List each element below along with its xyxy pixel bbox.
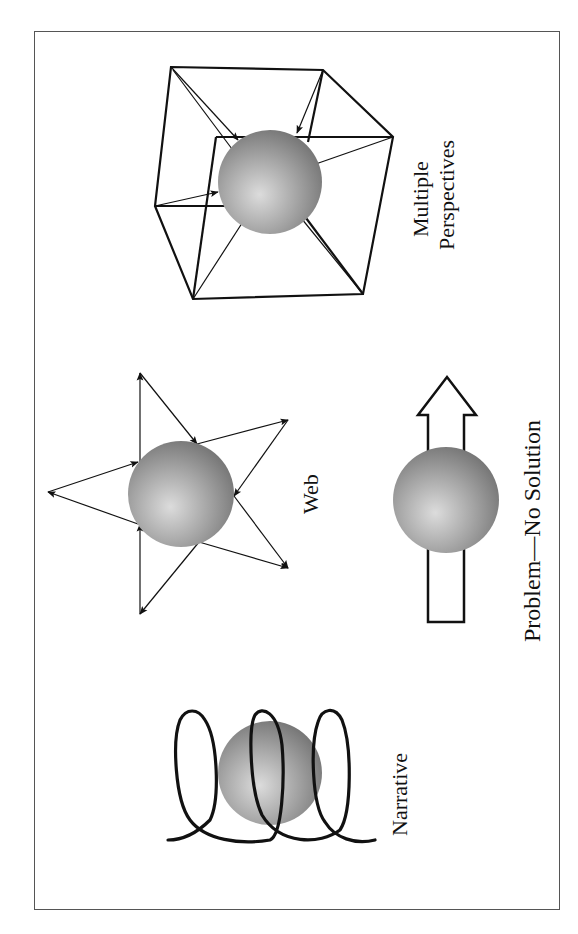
web-diagram: Web: [48, 373, 323, 614]
label-multiple: Multiple: [408, 161, 433, 237]
problem-no-solution-diagram: Problem—No Solution: [393, 377, 545, 642]
sphere: [128, 441, 234, 547]
sphere: [393, 447, 499, 553]
label-problem-no-solution: Problem—No Solution: [519, 420, 545, 642]
diagram-canvas: Multiple Perspectives Web Problem—No Sol…: [0, 0, 578, 934]
multiple-perspectives-diagram: Multiple Perspectives: [155, 67, 459, 299]
label-web: Web: [298, 474, 323, 514]
narrative-diagram: Narrative: [168, 710, 412, 841]
label-perspectives: Perspectives: [434, 140, 459, 250]
sphere: [218, 721, 322, 825]
sphere: [218, 130, 322, 234]
label-narrative: Narrative: [387, 753, 412, 836]
